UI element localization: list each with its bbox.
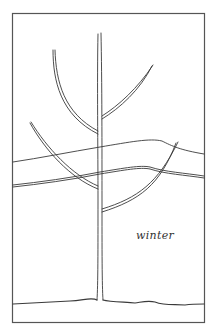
branch-upper-right (102, 65, 153, 119)
tree-trunk (97, 33, 103, 300)
branch-lower-right (102, 142, 178, 212)
ground-line (13, 299, 204, 305)
hill-line-upper (13, 140, 204, 162)
frame-border (13, 14, 205, 323)
hill-line-lower (13, 166, 204, 187)
branch-lower-left (30, 122, 98, 189)
season-caption: winter (136, 229, 174, 242)
branch-upper-left (53, 50, 98, 134)
winter-tree-illustration (0, 0, 218, 327)
